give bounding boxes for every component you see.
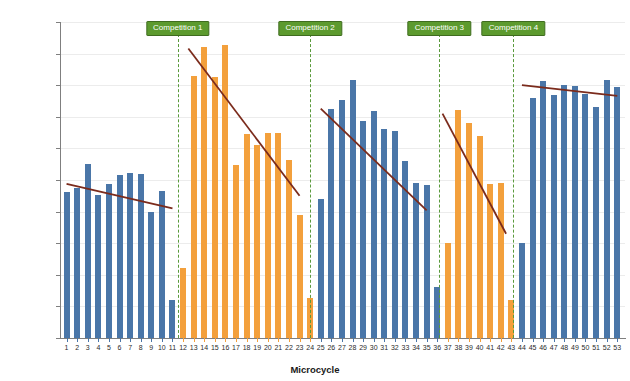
competition-divider-line-3: [439, 34, 440, 338]
x-axis-tick-mark: [215, 338, 216, 342]
bar-microcycle-38[interactable]: [455, 110, 461, 338]
x-axis-tick-mark: [480, 338, 481, 342]
y-axis-tick-mark: [56, 243, 60, 244]
volume-load-bar-chart: Volume load (kg) 05,00010,00015,00020,00…: [0, 0, 630, 381]
x-axis-tick-mark: [247, 338, 248, 342]
x-axis-tick-mark: [469, 338, 470, 342]
x-axis-tick-mark: [501, 338, 502, 342]
bar-microcycle-10[interactable]: [159, 191, 165, 338]
bar-microcycle-28[interactable]: [350, 80, 356, 338]
x-axis-tick-mark: [151, 338, 152, 342]
x-axis-tick-mark: [533, 338, 534, 342]
competition-divider-line-4: [513, 34, 514, 338]
bar-microcycle-20[interactable]: [265, 133, 271, 338]
bar-microcycle-48[interactable]: [561, 85, 567, 338]
competition-label-1[interactable]: Competition 1: [146, 21, 209, 36]
bar-microcycle-18[interactable]: [244, 134, 250, 338]
competition-label-2[interactable]: Competition 2: [278, 21, 341, 36]
x-axis-tick-mark: [130, 338, 131, 342]
x-axis-tick-mark: [617, 338, 618, 342]
bar-microcycle-8[interactable]: [138, 174, 144, 338]
bar-microcycle-15[interactable]: [212, 77, 218, 338]
bar-microcycle-31[interactable]: [381, 129, 387, 338]
bar-microcycle-7[interactable]: [127, 173, 133, 338]
bar-microcycle-11[interactable]: [169, 300, 175, 338]
x-axis-tick-mark: [543, 338, 544, 342]
x-axis-tick-mark: [98, 338, 99, 342]
bar-microcycle-53[interactable]: [614, 87, 620, 338]
x-axis-tick-mark: [331, 338, 332, 342]
bar-microcycle-40[interactable]: [477, 136, 483, 338]
x-axis-tick-mark: [278, 338, 279, 342]
x-axis-tick-mark: [342, 338, 343, 342]
y-axis-tick-mark: [56, 54, 60, 55]
bar-microcycle-35[interactable]: [424, 185, 430, 338]
bar-microcycle-12[interactable]: [180, 268, 186, 338]
bar-microcycle-39[interactable]: [466, 123, 472, 338]
competition-label-4[interactable]: Competition 4: [482, 21, 545, 36]
bar-microcycle-46[interactable]: [540, 81, 546, 338]
y-axis-tick-mark: [56, 338, 60, 339]
bar-microcycle-30[interactable]: [371, 111, 377, 338]
bar-microcycle-41[interactable]: [487, 184, 493, 338]
bar-microcycle-14[interactable]: [201, 47, 207, 338]
bar-microcycle-49[interactable]: [572, 86, 578, 338]
x-axis-tick-mark: [374, 338, 375, 342]
x-axis-tick-mark: [458, 338, 459, 342]
x-axis-title: Microcycle: [0, 364, 630, 375]
x-axis-tick-mark: [268, 338, 269, 342]
x-axis-tick-mark: [120, 338, 121, 342]
bar-microcycle-34[interactable]: [413, 183, 419, 338]
bar-microcycle-2[interactable]: [74, 188, 80, 338]
x-axis-tick-mark: [395, 338, 396, 342]
bar-microcycle-45[interactable]: [530, 98, 536, 338]
bar-microcycle-22[interactable]: [286, 160, 292, 338]
competition-label-3[interactable]: Competition 3: [408, 21, 471, 36]
bar-microcycle-25[interactable]: [318, 199, 324, 338]
x-axis-tick-mark: [575, 338, 576, 342]
x-axis-tick-mark: [141, 338, 142, 342]
bar-microcycle-52[interactable]: [604, 80, 610, 338]
bar-microcycle-16[interactable]: [222, 45, 228, 338]
x-axis-line: [60, 338, 626, 339]
x-axis-tick-mark: [437, 338, 438, 342]
bar-microcycle-23[interactable]: [297, 215, 303, 338]
bar-microcycle-9[interactable]: [148, 212, 154, 338]
bar-microcycle-26[interactable]: [328, 109, 334, 338]
x-axis-tick-mark: [384, 338, 385, 342]
x-axis-tick-mark: [607, 338, 608, 342]
bar-microcycle-17[interactable]: [233, 165, 239, 338]
y-axis-tick-mark: [56, 85, 60, 86]
bar-microcycle-29[interactable]: [360, 121, 366, 338]
y-axis-tick-mark: [56, 117, 60, 118]
bar-microcycle-47[interactable]: [551, 95, 557, 338]
x-axis-tick-label: 53: [609, 344, 625, 351]
x-axis-tick-mark: [109, 338, 110, 342]
bar-microcycle-37[interactable]: [445, 243, 451, 338]
x-axis-tick-mark: [225, 338, 226, 342]
plot-area: [60, 22, 625, 338]
bar-microcycle-51[interactable]: [593, 107, 599, 338]
bar-microcycle-32[interactable]: [392, 131, 398, 338]
x-axis-tick-mark: [416, 338, 417, 342]
x-axis-tick-mark: [88, 338, 89, 342]
bar-microcycle-33[interactable]: [402, 161, 408, 338]
bar-microcycle-19[interactable]: [254, 145, 260, 338]
y-axis-tick-mark: [56, 306, 60, 307]
bar-microcycle-1[interactable]: [64, 192, 70, 338]
bar-microcycle-27[interactable]: [339, 100, 345, 338]
x-axis-tick-mark: [427, 338, 428, 342]
x-axis-tick-mark: [172, 338, 173, 342]
bar-microcycle-44[interactable]: [519, 243, 525, 338]
bar-microcycle-3[interactable]: [85, 164, 91, 338]
y-axis-tick-mark: [56, 22, 60, 23]
bar-microcycle-6[interactable]: [117, 175, 123, 338]
bar-microcycle-21[interactable]: [275, 133, 281, 338]
bar-microcycle-42[interactable]: [498, 183, 504, 338]
x-axis-tick-mark: [405, 338, 406, 342]
bar-microcycle-13[interactable]: [191, 76, 197, 338]
bar-microcycle-4[interactable]: [95, 195, 101, 338]
x-axis-tick-mark: [289, 338, 290, 342]
bar-microcycle-50[interactable]: [582, 94, 588, 338]
bar-microcycle-5[interactable]: [106, 184, 112, 338]
